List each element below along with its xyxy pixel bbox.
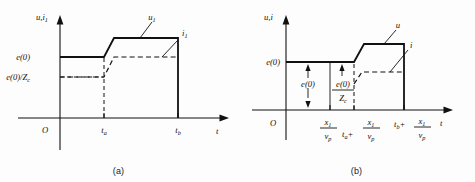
curve-label-u-b: u [396, 20, 400, 30]
x-tick-label-x1vp-num-b: x1 [324, 117, 332, 128]
curve-u1-a [60, 38, 178, 118]
annotation-e0-zc-denominator-b: Zc [339, 93, 347, 104]
x-axis-title-b: t [440, 118, 443, 128]
leader-i-b [390, 50, 408, 72]
x-tick-label-ta-prefix-b: ta+ [342, 129, 353, 140]
leader-i1-a [162, 40, 178, 57]
annotation-e0-zc-numerator-b: e(0) [336, 79, 350, 89]
x-tick-label-tb-x1vp-num-b: x1 [418, 116, 426, 127]
y-axis-arrow-b [283, 15, 290, 25]
figure-root: e(0) e(0)/Zc u,i1 t O ta tb u1 i1 (a) [0, 0, 475, 182]
leader-u1-a [140, 22, 152, 38]
x-tick-label-tb-x1vp-den-b: vp [419, 130, 426, 141]
annotation-e0-b: e(0) [301, 79, 315, 89]
x-tick-label-tb-a: tb [175, 125, 180, 136]
origin-label-b: O [270, 118, 276, 128]
amp-arrow-head-down-b [305, 101, 310, 108]
chart-panel-a: e(0) e(0)/Zc u,i1 t O ta tb u1 i1 (a) [0, 0, 237, 182]
y-tick-label-e0-b: e(0) [266, 57, 280, 67]
x-tick-label-x1vp-den-b: vp [325, 131, 332, 142]
leader-u-b [384, 30, 396, 44]
x-axis-title-a: t [216, 126, 219, 136]
curve-i1-a [60, 57, 178, 77]
x-tick-label-ta-x1vp-den-b: vp [368, 131, 375, 142]
chart-b-svg: e(0) u,i t O e(0) e(0) Zc x1 vp ta+ x1 v… [238, 0, 475, 165]
x-axis-arrow-b [444, 107, 454, 114]
y-axis-title-b: u,i [264, 12, 273, 22]
y-tick-label-e0-a: e(0) [16, 52, 30, 62]
chart-panel-b: e(0) u,i t O e(0) e(0) Zc x1 vp ta+ x1 v… [238, 0, 475, 182]
panel-caption-b: (b) [238, 166, 475, 176]
amp-arrow-head-up-b [305, 64, 310, 71]
chart-a-svg: e(0) e(0)/Zc u,i1 t O ta tb u1 i1 [0, 0, 237, 165]
curve-i-b [354, 72, 404, 84]
curve-label-i-b: i [410, 40, 413, 50]
x-tick-label-tb-prefix-b: tb+ [394, 119, 405, 130]
y-tick-label-e0-zc-a: e(0)/Zc [6, 72, 30, 83]
amp2-arrow-head-b [339, 64, 344, 71]
panel-caption-a: (a) [0, 166, 237, 176]
x-tick-label-ta-a: ta [101, 125, 106, 136]
curve-label-i1-a: i1 [182, 28, 187, 39]
y-axis-arrow-a [57, 15, 64, 25]
origin-label-a: O [42, 125, 48, 135]
x-axis-arrow-a [220, 115, 230, 122]
curve-label-u1-a: u1 [148, 12, 155, 23]
x-tick-label-ta-x1vp-num-b: x1 [367, 117, 375, 128]
y-axis-title-a: u,i1 [36, 12, 48, 23]
